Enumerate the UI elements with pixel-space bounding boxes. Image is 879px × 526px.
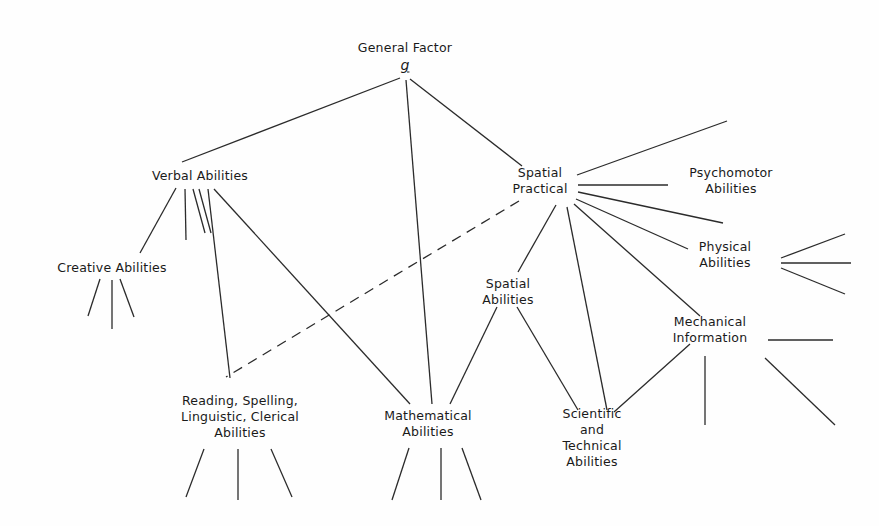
node-mathematical-abilities[interactable]: Mathematical Abilities <box>384 408 472 440</box>
edge-physical-stub-down <box>781 268 845 294</box>
edge-physical-stub-up <box>781 234 845 258</box>
node-spatial-abilities[interactable]: Spatial Abilities <box>482 276 533 308</box>
node-verbal-abilities[interactable]: Verbal Abilities <box>152 168 248 184</box>
node-creative-abilities[interactable]: Creative Abilities <box>57 260 166 276</box>
edge-spatial-practical-to-spatial-abilities <box>518 205 556 272</box>
edge-creative-stub-3 <box>120 279 134 317</box>
edge-g-to-verbal <box>182 78 400 162</box>
edge-verbal-to-mathematical <box>214 189 410 404</box>
edge-spatial-abilities-to-scientific <box>517 307 578 410</box>
edge-mechanical-from-scientific <box>614 344 690 412</box>
node-general-factor[interactable]: General Factor g <box>358 40 452 73</box>
node-scientific-and-technical-abilities[interactable]: Scientific and Technical Abilities <box>562 406 621 470</box>
edge-verbal-stub-1 <box>185 189 186 240</box>
node-mechanical-information[interactable]: Mechanical Information <box>673 314 748 346</box>
node-physical-abilities[interactable]: Physical Abilities <box>699 239 751 271</box>
node-psychomotor-abilities[interactable]: Psychomotor Abilities <box>689 165 772 197</box>
edge-spatial-practical-to-scientific <box>567 207 607 410</box>
edge-spatial-practical-to-mechanical <box>574 204 700 316</box>
edge-verbal-stub-2 <box>193 189 205 233</box>
general-factor-title: General Factor <box>358 40 452 56</box>
general-factor-symbol: g <box>358 57 452 73</box>
ability-hierarchy-diagram: General Factor g Verbal Abilities Spatia… <box>0 0 879 526</box>
edge-reading-stub-3 <box>271 449 292 497</box>
edge-spatial-abilities-to-mathematical <box>450 307 497 404</box>
edge-mathematical-stub-3 <box>462 448 481 500</box>
edge-g-to-spatial-practical <box>410 79 522 166</box>
edge-spatial-practical-to-reading-dashed <box>226 201 519 377</box>
edge-mathematical-stub-1 <box>392 448 409 500</box>
node-reading-spelling-linguistic-clerical-abilities[interactable]: Reading, Spelling, Linguistic, Clerical … <box>181 393 299 441</box>
node-spatial-practical[interactable]: Spatial Practical <box>512 165 567 197</box>
edge-verbal-to-reading <box>208 189 230 378</box>
edge-creative-stub-1 <box>88 279 100 316</box>
edge-g-to-mathematical <box>406 80 432 404</box>
edge-mechanical-stub-diagonal <box>765 358 835 425</box>
edge-reading-stub-1 <box>186 449 204 497</box>
edge-spatial-practical-to-physical <box>576 199 688 249</box>
edge-verbal-to-creative <box>140 188 176 253</box>
